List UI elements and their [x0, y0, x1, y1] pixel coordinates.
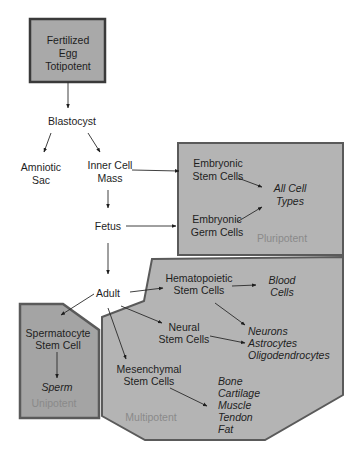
neural-label-2: Stem Cells [159, 333, 210, 345]
adult-label: Adult [96, 287, 120, 299]
all-cell-label: All Cell [273, 182, 307, 194]
spermatocyte-label-2: Stem Cell [35, 339, 81, 351]
multipotent-label: Multipotent [125, 411, 176, 423]
cartilage-label: Cartilage [218, 387, 260, 399]
inner-cell-label: Inner Cell [88, 159, 133, 171]
neurons-label: Neurons [248, 325, 288, 337]
blood-label: Blood [269, 274, 297, 286]
astrocytes-label: Astrocytes [247, 337, 298, 349]
egc-label-2: Germ Cells [191, 226, 244, 238]
fetus-label: Fetus [95, 220, 121, 232]
msc-label-2: Stem Cells [124, 375, 175, 387]
amniotic-label: Amniotic [21, 161, 61, 173]
spermatocyte-label-1: Spermatocyte [26, 327, 91, 339]
egg-label: Egg [59, 47, 78, 59]
egc-label-1: Embryonic [192, 213, 242, 225]
fertilized-label: Fertilized [47, 34, 90, 46]
sperm-label: Sperm [42, 381, 73, 393]
totipotent-label: Totipotent [45, 60, 91, 72]
esc-label-2: Stem Cells [193, 170, 244, 182]
esc-label-1: Embryonic [193, 157, 243, 169]
hsc-label-2: Stem Cells [174, 284, 225, 296]
sac-label: Sac [32, 174, 50, 186]
muscle-label: Muscle [218, 399, 251, 411]
stem-cell-diagram: Fertilized Egg Totipotent Blastocyst Amn… [0, 0, 351, 454]
msc-label-1: Mesenchymal [117, 363, 182, 375]
types-label: Types [276, 195, 305, 207]
bone-label: Bone [218, 375, 243, 387]
unipotent-label: Unipotent [32, 397, 77, 409]
neural-label-1: Neural [169, 321, 200, 333]
mass-label: Mass [97, 172, 122, 184]
hsc-label-1: Hematopoietic [165, 272, 232, 284]
pluripotent-label: Pluripotent [257, 232, 307, 244]
tendon-label: Tendon [218, 411, 253, 423]
oligodendrocytes-label: Oligodendrocytes [248, 349, 330, 361]
cells-label: Cells [270, 286, 294, 298]
blastocyst-label: Blastocyst [48, 115, 96, 127]
fat-label: Fat [218, 423, 234, 435]
